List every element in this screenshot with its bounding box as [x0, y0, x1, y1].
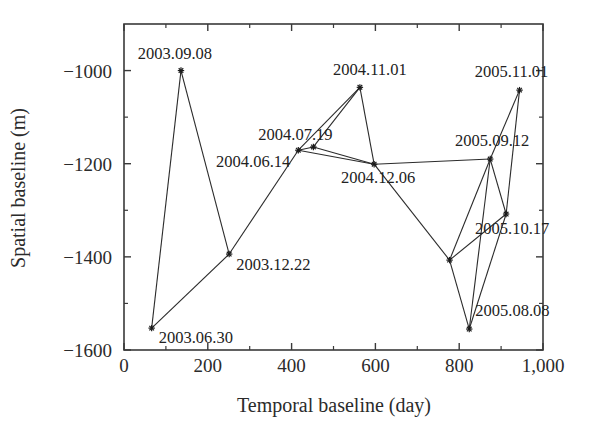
- data-point: [371, 161, 377, 167]
- data-point-label: 2005.08.08: [475, 301, 549, 320]
- data-point-label: 2005.11.01: [475, 62, 549, 81]
- x-tick-label: 1,000: [522, 355, 565, 376]
- data-point: [295, 147, 301, 153]
- network-edge: [152, 254, 230, 328]
- x-tick-label: 200: [194, 355, 223, 376]
- data-point: [446, 257, 452, 263]
- network-edge: [506, 90, 519, 214]
- data-point: [503, 211, 509, 217]
- data-point: [487, 156, 493, 162]
- data-point: [226, 251, 232, 257]
- network-edge: [313, 147, 374, 164]
- data-point-label: 2004.07.19: [258, 125, 332, 144]
- network-edge: [360, 87, 374, 164]
- data-point: [357, 84, 363, 90]
- x-tick-label: 600: [361, 355, 390, 376]
- network-edge: [374, 159, 490, 164]
- x-axis-title: Temporal baseline (day): [237, 394, 431, 417]
- data-point: [516, 87, 522, 93]
- baseline-network-figure: 02004006008001,000−1000−1200−1400−1600 2…: [0, 0, 596, 431]
- network-edge: [298, 150, 374, 164]
- data-point-label: 2004.06.14: [216, 152, 290, 171]
- network-edges-group: [152, 71, 520, 329]
- x-tick-label: 0: [119, 355, 129, 376]
- data-point-label: 2004.12.06: [341, 168, 415, 187]
- network-edge: [450, 260, 470, 329]
- y-tick-label: −1200: [63, 154, 112, 175]
- network-nodes-group: [148, 67, 522, 332]
- data-point: [178, 67, 184, 73]
- data-point: [310, 144, 316, 150]
- data-point-label: 2005.09.12: [455, 131, 529, 150]
- data-point: [148, 325, 154, 331]
- data-point-label: 2003.12.22: [236, 255, 310, 274]
- y-tick-label: −1000: [63, 61, 112, 82]
- data-point-label: 2005.10.17: [475, 219, 549, 238]
- y-axis-title: Spatial baseline (m): [7, 108, 30, 268]
- point-labels-group: 2003.06.302003.09.082003.12.222004.06.14…: [138, 44, 550, 348]
- data-point-label: 2003.06.30: [159, 328, 233, 347]
- data-point: [466, 326, 472, 332]
- x-tick-label: 400: [277, 355, 306, 376]
- data-point-label: 2003.09.08: [138, 44, 212, 63]
- chart-canvas: 02004006008001,000−1000−1200−1400−1600 2…: [0, 0, 596, 431]
- network-edge: [152, 71, 181, 329]
- data-point-label: 2004.11.01: [333, 60, 407, 79]
- y-tick-label: −1400: [63, 247, 112, 268]
- y-tick-label: −1600: [63, 340, 112, 361]
- x-tick-label: 800: [445, 355, 474, 376]
- network-edge: [490, 159, 506, 214]
